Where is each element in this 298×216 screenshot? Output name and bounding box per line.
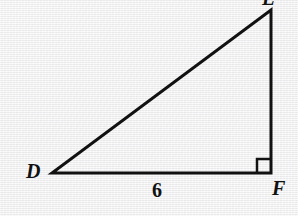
- vertex-label-apex: E: [262, 0, 275, 8]
- vertex-label-f: F: [272, 178, 285, 198]
- vertex-label-d: D: [26, 161, 40, 181]
- triangle-outline: [52, 10, 271, 173]
- triangle-drawing-canvas: [0, 0, 298, 216]
- right-angle-marker-icon: [257, 159, 271, 173]
- side-length-label-base: 6: [152, 180, 162, 200]
- geometry-figure: E D F 6: [0, 0, 298, 216]
